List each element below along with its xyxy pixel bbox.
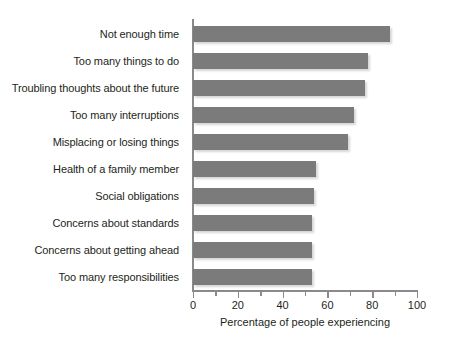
bar xyxy=(193,161,316,177)
bar xyxy=(193,134,348,150)
bar xyxy=(193,215,312,231)
x-axis-major-tick xyxy=(238,291,239,298)
x-axis-major-tick xyxy=(283,291,284,298)
bar xyxy=(193,80,365,96)
bar xyxy=(193,107,354,123)
x-axis-minor-tick xyxy=(395,291,396,296)
bar xyxy=(193,26,390,42)
category-label: Too many responsibilities xyxy=(0,263,186,290)
category-label: Too many interruptions xyxy=(0,101,186,128)
bar-rows xyxy=(193,20,417,290)
x-axis-major-tick xyxy=(193,291,194,298)
category-label: Concerns about getting ahead xyxy=(0,236,186,263)
category-label: Misplacing or losing things xyxy=(0,128,186,155)
bar-chart: Not enough timeToo many things to doTrou… xyxy=(0,0,459,343)
x-axis-tick-label: 80 xyxy=(366,299,378,312)
bar xyxy=(193,269,312,285)
x-axis-tick-label: 40 xyxy=(276,299,288,312)
bar xyxy=(193,188,314,204)
bar xyxy=(193,242,312,258)
bar-row xyxy=(193,101,417,128)
category-label: Social obligations xyxy=(0,182,186,209)
x-axis-minor-tick xyxy=(350,291,351,296)
category-label: Concerns about standards xyxy=(0,209,186,236)
bar xyxy=(193,53,368,69)
x-axis-minor-tick xyxy=(260,291,261,296)
x-axis-tick-label: 100 xyxy=(408,299,426,312)
bar-row xyxy=(193,209,417,236)
x-axis-tick-label: 60 xyxy=(321,299,333,312)
x-axis-minor-tick xyxy=(215,291,216,296)
x-axis-title: Percentage of people experiencing xyxy=(193,316,417,329)
plot-area xyxy=(193,20,417,290)
x-axis-minor-tick xyxy=(305,291,306,296)
bar-row xyxy=(193,128,417,155)
category-label: Not enough time xyxy=(0,20,186,47)
bar-row xyxy=(193,236,417,263)
x-axis-major-tick xyxy=(417,291,418,298)
bar-row xyxy=(193,47,417,74)
bar-row xyxy=(193,74,417,101)
bar-row xyxy=(193,20,417,47)
x-axis-major-tick xyxy=(327,291,328,298)
bar-row xyxy=(193,155,417,182)
category-label: Too many things to do xyxy=(0,47,186,74)
category-axis-labels: Not enough timeToo many things to doTrou… xyxy=(0,20,186,290)
category-label: Health of a family member xyxy=(0,155,186,182)
bar-row xyxy=(193,182,417,209)
x-axis-major-tick xyxy=(372,291,373,298)
x-axis-tick-label: 0 xyxy=(190,299,196,312)
category-label: Troubling thoughts about the future xyxy=(0,74,186,101)
bar-row xyxy=(193,263,417,290)
x-axis-tick-labels: 020406080100 xyxy=(193,299,417,313)
x-axis-tick-label: 20 xyxy=(232,299,244,312)
x-axis-ticks xyxy=(193,291,417,298)
